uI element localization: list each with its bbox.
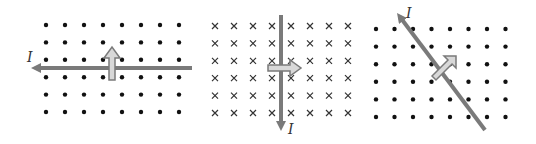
field-dot-icon [82, 75, 86, 79]
field-cross-icon [288, 110, 294, 116]
field-cross-icon [288, 23, 294, 29]
field-cross-icon [231, 23, 237, 29]
field-dot-icon [82, 58, 86, 62]
field-cross-icon [307, 93, 313, 99]
field-dot-icon [44, 40, 48, 44]
field-dot-icon [411, 62, 415, 66]
field-dot-icon [139, 75, 143, 79]
field-dot-icon [82, 92, 86, 96]
field-cross-icon [250, 40, 256, 46]
field-dot-icon [503, 80, 507, 84]
field-dot-icon [158, 40, 162, 44]
field-dot-icon [101, 92, 105, 96]
field-dot-icon [63, 110, 67, 114]
field-cross-icon [250, 110, 256, 116]
field-cross-icon [212, 110, 218, 116]
field-cross-icon [231, 40, 237, 46]
field-dot-icon [503, 115, 507, 119]
field-dot-icon [411, 115, 415, 119]
field-dot-icon [503, 27, 507, 31]
field-cross-icon [345, 23, 351, 29]
field-cross-icon [250, 58, 256, 64]
field-dot-icon [429, 27, 433, 31]
field-dot-icon [485, 27, 489, 31]
field-dot-icon [63, 92, 67, 96]
field-dot-icon [448, 27, 452, 31]
field-cross-icon [345, 40, 351, 46]
field-dot-icon [120, 40, 124, 44]
field-dot-icon [374, 62, 378, 66]
field-dot-icon [466, 44, 470, 48]
field-dot-icon [177, 40, 181, 44]
field-cross-icon [326, 40, 332, 46]
field-dot-icon [429, 80, 433, 84]
field-cross-icon [326, 93, 332, 99]
field-dot-icon [485, 115, 489, 119]
field-cross-icon [307, 58, 313, 64]
field-dot-icon [120, 92, 124, 96]
field-dot-icon [374, 97, 378, 101]
field-dot-icon [63, 75, 67, 79]
field-cross-icon [250, 93, 256, 99]
field-cross-icon [288, 40, 294, 46]
field-dot-icon [177, 23, 181, 27]
field-cross-icon [231, 93, 237, 99]
field-dot-icon [63, 23, 67, 27]
field-cross-icon [231, 75, 237, 81]
field-dot-icon [82, 110, 86, 114]
field-cross-icon [212, 40, 218, 46]
field-dot-icon [44, 110, 48, 114]
field-cross-icon [250, 23, 256, 29]
field-dot-icon [44, 92, 48, 96]
field-cross-icon [326, 75, 332, 81]
field-dot-icon [139, 110, 143, 114]
field-cross-icon [212, 93, 218, 99]
field-dot-icon [411, 80, 415, 84]
field-cross-icon [269, 40, 275, 46]
diagram-canvas: I I I [0, 0, 536, 144]
field-cross-icon [231, 110, 237, 116]
panel-3-current-label: I [405, 5, 412, 21]
field-cross-icon [326, 23, 332, 29]
field-dot-icon [466, 97, 470, 101]
field-dot-icon [503, 97, 507, 101]
panel-2-current-label: I [287, 121, 294, 137]
field-dot-icon [120, 75, 124, 79]
field-dot-icon [158, 110, 162, 114]
panel-1-current-label: I [26, 49, 33, 65]
field-cross-icon [288, 93, 294, 99]
field-dot-icon [374, 80, 378, 84]
field-dot-icon [448, 115, 452, 119]
field-dot-icon [82, 40, 86, 44]
field-dot-icon [177, 92, 181, 96]
field-cross-icon [345, 75, 351, 81]
field-dot-icon [44, 23, 48, 27]
field-dot-icon [485, 44, 489, 48]
field-dot-icon [63, 58, 67, 62]
field-dot-icon [429, 97, 433, 101]
field-dot-icon [158, 23, 162, 27]
field-cross-icon [345, 110, 351, 116]
field-dot-icon [44, 58, 48, 62]
field-cross-icon [307, 75, 313, 81]
field-cross-icon [269, 23, 275, 29]
field-dot-icon [139, 92, 143, 96]
field-dot-icon [411, 44, 415, 48]
field-cross-icon [212, 75, 218, 81]
field-cross-icon [231, 58, 237, 64]
field-dot-icon [44, 75, 48, 79]
field-dot-icon [158, 92, 162, 96]
field-cross-icon [307, 110, 313, 116]
field-dot-icon [392, 27, 396, 31]
field-dot-icon [503, 44, 507, 48]
field-dot-icon [392, 115, 396, 119]
field-dot-icon [139, 40, 143, 44]
field-dot-icon [466, 80, 470, 84]
field-dot-icon [139, 58, 143, 62]
field-cross-icon [307, 23, 313, 29]
field-dot-icon [101, 75, 105, 79]
field-cross-icon [269, 93, 275, 99]
field-cross-icon [345, 93, 351, 99]
field-cross-icon [250, 75, 256, 81]
field-dot-icon [392, 44, 396, 48]
